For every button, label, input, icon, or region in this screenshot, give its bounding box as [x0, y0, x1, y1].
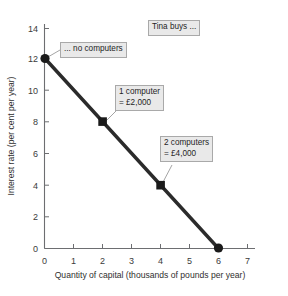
x-axis-title: Quantity of capital (thousands of pounds… [55, 270, 246, 280]
callout-one-computer-line1: 1 computer [119, 87, 160, 98]
x-tick-label-5: 5 [187, 256, 192, 266]
x-tick-label-2: 2 [100, 256, 105, 266]
callout-one-computer-line2: = £2,000 [119, 98, 160, 109]
x-tick-label-7: 7 [245, 256, 250, 266]
chart-figure: 0 2 4 6 8 10 12 14 0 1 2 3 4 5 6 7 Quant… [0, 0, 288, 296]
y-tick-label-10: 10 [28, 86, 38, 96]
y-tick-label-14: 14 [28, 24, 38, 34]
y-tick-label-2: 2 [33, 212, 38, 222]
callout-one-computer: 1 computer = £2,000 [115, 85, 164, 111]
x-tick-label-6: 6 [216, 256, 221, 266]
callout-tina-buys: Tina buys ... [148, 20, 200, 36]
data-point-0-12 [40, 54, 49, 63]
data-point-4-4 [156, 181, 165, 190]
y-tick-label-0: 0 [33, 244, 38, 254]
x-tick-label-4: 4 [158, 256, 163, 266]
callout-two-computers-line2: = £4,000 [164, 149, 209, 160]
y-tick-label-4: 4 [33, 181, 38, 191]
y-tick-label-8: 8 [33, 117, 38, 127]
callout-no-computers: ... no computers [60, 42, 127, 58]
callout-two-computers-line1: 2 computers [164, 138, 209, 149]
x-tick-label-0: 0 [42, 256, 47, 266]
y-tick-label-6: 6 [33, 149, 38, 159]
leader-line-no-computers [48, 50, 60, 57]
y-tick-label-12: 12 [28, 54, 38, 64]
x-tick-label-1: 1 [71, 256, 76, 266]
data-point-2-8 [98, 117, 107, 126]
callout-tina-buys-text: Tina buys ... [152, 22, 196, 33]
x-tick-label-3: 3 [129, 256, 134, 266]
chart-plot-area: 0 2 4 6 8 10 12 14 0 1 2 3 4 5 6 7 Quant… [0, 0, 288, 296]
y-axis-title: Interest rate (per cent per year) [6, 76, 16, 195]
callout-two-computers: 2 computers = £4,000 [160, 136, 213, 162]
data-point-6-0 [214, 243, 223, 252]
callout-no-computers-line1: ... no computers [64, 44, 123, 55]
